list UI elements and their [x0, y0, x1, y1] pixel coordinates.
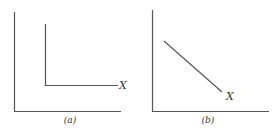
panel-b-curve-x: [164, 41, 222, 92]
panel-a: X (a): [14, 12, 128, 125]
panel-b: X (b): [152, 10, 269, 125]
diagram-canvas: X (a) X (b): [0, 0, 279, 133]
panel-a-caption: (a): [64, 115, 77, 125]
panel-b-curve-label: X: [225, 90, 235, 103]
panel-a-curve-x: [46, 24, 119, 86]
panel-a-curve-label: X: [118, 79, 128, 92]
panel-b-caption: (b): [202, 115, 215, 125]
